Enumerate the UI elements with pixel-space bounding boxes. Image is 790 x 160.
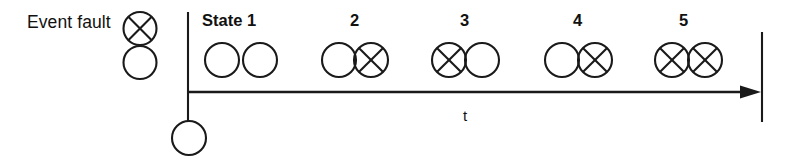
time-axis-label: t xyxy=(463,108,467,123)
timeline-diagram: Event fault State 1 2 3 4 5 t xyxy=(0,0,790,160)
state-2-symbols xyxy=(322,43,388,77)
legend-label: Event fault xyxy=(27,14,111,32)
state-3-label: 3 xyxy=(460,12,469,29)
diagram-canvas xyxy=(0,0,790,160)
legend-event-symbol xyxy=(124,46,157,79)
state-4-label: 4 xyxy=(573,12,582,29)
state-5-label: 5 xyxy=(679,12,688,29)
state-4-symbols xyxy=(545,43,612,77)
state-2-label: 2 xyxy=(350,12,359,29)
state-1-label: State 1 xyxy=(202,12,256,29)
state-1-symbols xyxy=(205,43,277,77)
state-5-symbols xyxy=(655,43,722,77)
legend-fault-symbol xyxy=(124,12,157,45)
state-3-symbols xyxy=(432,43,499,77)
time-axis-arrowhead xyxy=(740,86,761,99)
origin-marker-symbol xyxy=(172,121,206,155)
